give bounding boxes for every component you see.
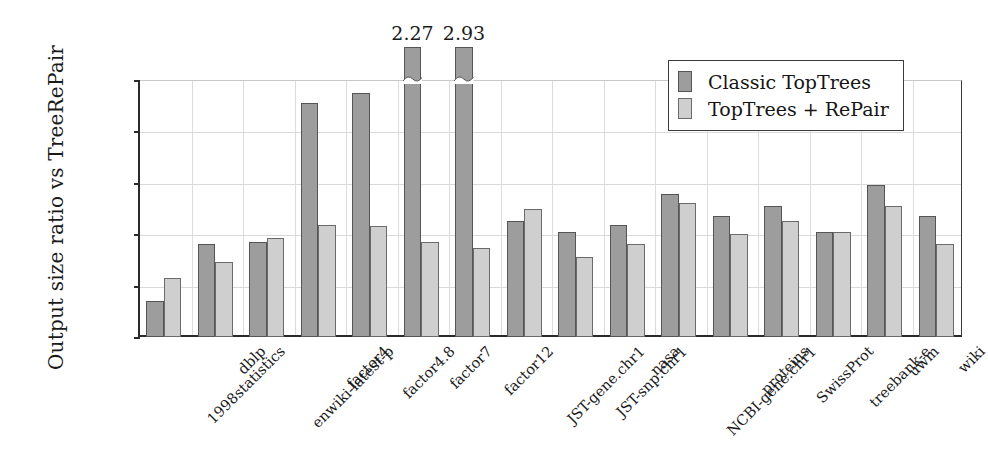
gridline-vertical [295, 81, 296, 335]
bar [764, 206, 782, 337]
gridline-vertical [604, 81, 605, 335]
legend-item-classic-toptrees: Classic TopTrees [678, 68, 889, 95]
bar [919, 216, 937, 337]
bar [627, 244, 645, 337]
bar [215, 262, 233, 337]
bar [318, 225, 336, 337]
legend-swatch-classic-toptrees [678, 71, 692, 92]
bar [661, 194, 679, 337]
gridline-vertical [501, 81, 502, 335]
bar [455, 80, 473, 337]
x-tick-label: factor4 [344, 343, 393, 392]
bar [301, 103, 319, 337]
bar [558, 232, 576, 337]
bar [524, 209, 542, 338]
y-tick-mark [134, 234, 140, 236]
gridline-vertical [655, 81, 656, 335]
x-tick-label: uwm [905, 343, 941, 379]
legend-item-toptrees-repair: TopTrees + RePair [678, 95, 889, 122]
legend: Classic TopTrees TopTrees + RePair [668, 60, 904, 131]
legend-swatch-toptrees-repair [678, 98, 692, 119]
x-tick-label: factor12 [501, 343, 556, 398]
gridline-vertical [552, 81, 553, 335]
bar-clipped-extension [404, 47, 422, 80]
bar [610, 225, 628, 337]
bar [370, 226, 388, 337]
gridline-vertical [398, 81, 399, 335]
clipped-value-label: 2.27 [391, 22, 433, 44]
bar [267, 238, 285, 337]
bar [679, 203, 697, 337]
clipped-value-label: 2.93 [443, 22, 485, 44]
gridline-horizontal [140, 184, 961, 185]
bar [576, 257, 594, 337]
bar [249, 242, 267, 337]
bar [164, 278, 182, 337]
bar [404, 80, 422, 337]
bar [473, 248, 491, 337]
bar [198, 244, 216, 337]
bar [782, 221, 800, 337]
bar [816, 232, 834, 337]
bar-clipped-extension [455, 47, 473, 80]
bar [936, 244, 954, 337]
bar [867, 185, 885, 337]
gridline-vertical [243, 81, 244, 335]
y-tick-mark [134, 80, 140, 82]
y-axis-title: Output size ratio vs TreeRePair [44, 50, 68, 370]
bar [713, 216, 731, 337]
gridline-vertical [346, 81, 347, 335]
bar [730, 234, 748, 337]
gridline-horizontal [140, 132, 961, 133]
gridline-vertical [192, 81, 193, 335]
bar [146, 301, 164, 337]
bar [833, 232, 851, 337]
bar [507, 221, 525, 337]
legend-label-classic-toptrees: Classic TopTrees [708, 71, 871, 93]
x-tick-label: wiki [955, 343, 988, 376]
y-tick-mark [134, 131, 140, 133]
y-tick-mark [134, 286, 140, 288]
bar [421, 242, 439, 337]
bar [352, 93, 370, 337]
legend-label-toptrees-repair: TopTrees + RePair [708, 98, 889, 120]
y-tick-mark [134, 337, 140, 339]
y-tick-mark [134, 183, 140, 185]
x-tick-label: proteins [758, 343, 812, 397]
gridline-vertical [913, 81, 914, 335]
x-tick-label: factor4.8 [399, 343, 457, 401]
bar [885, 206, 903, 337]
gridline-vertical [449, 81, 450, 335]
